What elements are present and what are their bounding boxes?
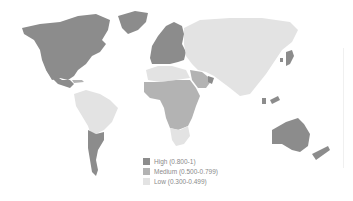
region-korea (280, 58, 283, 62)
divider (343, 48, 344, 168)
legend-item-high: High (0.800-1) (143, 157, 218, 166)
legend-label: Low (0.300-0.499) (154, 178, 207, 185)
region-southern-cone (88, 130, 104, 176)
swatch-low (143, 178, 150, 185)
region-north-africa (146, 66, 190, 82)
region-north-america (22, 14, 110, 80)
region-south-america-north (74, 90, 118, 134)
region-japan (286, 50, 294, 66)
swatch-medium (143, 168, 150, 175)
legend-item-low: Low (0.300-0.499) (143, 177, 218, 186)
legend-label: High (0.800-1) (154, 158, 196, 165)
legend: High (0.800-1) Medium (0.500-0.799) Low … (143, 157, 218, 187)
legend-item-medium: Medium (0.500-0.799) (143, 167, 218, 176)
region-caribbean (72, 80, 84, 83)
region-europe (150, 22, 186, 64)
region-se-asia (262, 98, 266, 104)
region-africa (144, 80, 200, 130)
region-indonesia (270, 96, 280, 104)
swatch-high (143, 158, 150, 165)
region-greenland (118, 11, 148, 34)
legend-label: Medium (0.500-0.799) (154, 168, 218, 175)
region-new-zealand (312, 146, 330, 160)
region-australia (272, 118, 310, 152)
